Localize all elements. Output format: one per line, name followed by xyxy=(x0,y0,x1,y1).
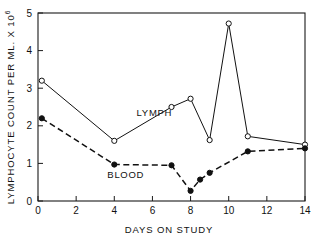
data-series-layer xyxy=(39,21,307,194)
y-tick-label: 3 xyxy=(26,83,32,94)
data-point-marker xyxy=(169,163,174,168)
x-tick-label: 14 xyxy=(299,205,311,216)
data-point-marker xyxy=(226,21,231,26)
y-tick-label: 1 xyxy=(26,158,32,169)
y-axis-title-text: LYMPHOCYTE COUNT PER ML. X 10 xyxy=(5,14,16,204)
y-axis-title: LYMPHOCYTE COUNT PER ML. X 106 xyxy=(4,10,16,204)
series-label-lymph: LYMPH xyxy=(137,107,173,118)
x-tick-label: 8 xyxy=(188,205,194,216)
data-point-marker xyxy=(188,96,193,101)
series-blood xyxy=(39,116,307,194)
data-point-marker xyxy=(245,149,250,154)
y-axis-tick-labels: 012345 xyxy=(26,8,32,207)
y-tick-label: 2 xyxy=(26,120,32,131)
x-axis-title: DAYS ON STUDY xyxy=(125,224,214,235)
x-tick-label: 2 xyxy=(73,205,79,216)
data-point-marker xyxy=(39,78,44,83)
series-label-blood: BLOOD xyxy=(107,169,144,180)
lymphocyte-count-line-chart: 012345 02468101214 LYMPHBLOOD DAYS ON ST… xyxy=(0,0,319,238)
data-point-marker xyxy=(302,146,307,151)
data-point-marker xyxy=(188,188,193,193)
series-line xyxy=(42,24,305,145)
x-tick-label: 12 xyxy=(261,205,273,216)
x-tick-label: 10 xyxy=(223,205,235,216)
y-tick-label: 4 xyxy=(26,45,32,56)
x-axis-tick-marks xyxy=(38,196,305,201)
data-point-marker xyxy=(207,170,212,175)
series-lymph xyxy=(39,21,307,147)
data-point-marker xyxy=(207,137,212,142)
data-point-marker xyxy=(112,138,117,143)
data-point-marker xyxy=(245,134,250,139)
y-axis-title-exponent: 6 xyxy=(4,10,11,15)
x-tick-label: 6 xyxy=(150,205,156,216)
series-annotations: LYMPHBLOOD xyxy=(107,107,172,180)
y-tick-label: 0 xyxy=(26,196,32,207)
y-tick-label: 5 xyxy=(26,8,32,19)
x-axis-tick-labels: 02468101214 xyxy=(35,205,311,216)
data-point-marker xyxy=(198,177,203,182)
x-tick-label: 0 xyxy=(35,205,41,216)
y-axis-tick-marks xyxy=(38,13,43,201)
data-point-marker xyxy=(39,116,44,121)
series-line xyxy=(42,118,305,191)
x-tick-label: 4 xyxy=(112,205,118,216)
data-point-marker xyxy=(112,162,117,167)
